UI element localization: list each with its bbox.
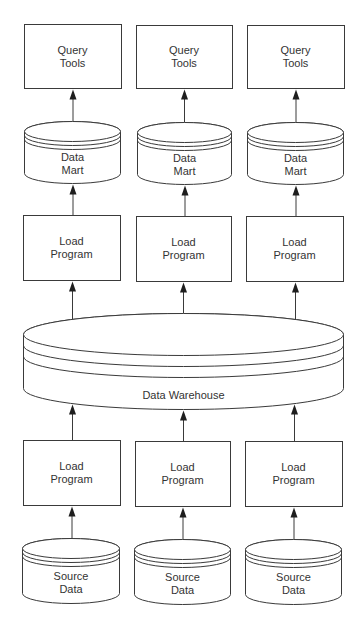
flow-arrow (291, 508, 298, 540)
shape-label: Program (273, 249, 315, 261)
flow-arrow (70, 184, 77, 215)
source-data-cylinder[interactable]: SourceData (23, 539, 120, 604)
flow-arrow (181, 90, 188, 123)
arrowhead-icon (180, 283, 187, 293)
shape-label: Load (170, 461, 194, 473)
shape-label: Source (276, 571, 311, 583)
load-program-box[interactable]: LoadProgram (136, 442, 231, 507)
query-tools-box[interactable]: QueryTools (137, 26, 233, 89)
flow-arrow (292, 283, 299, 320)
shape-label: Load (282, 236, 306, 248)
flow-arrow (182, 185, 189, 216)
arrowhead-icon (293, 185, 300, 195)
flow-arrow (69, 507, 76, 539)
shape-label: Source (54, 570, 89, 582)
data-mart-cylinder[interactable]: DataMart (25, 122, 121, 184)
arrowhead-icon (69, 282, 76, 292)
query-tools-box[interactable]: QueryTools (248, 26, 345, 89)
shape-label: Query (169, 44, 199, 56)
shape-label: Program (50, 248, 92, 260)
flow-arrow (180, 508, 187, 540)
arrowhead-icon (180, 411, 187, 421)
shape-label: Mart (174, 165, 196, 177)
load-program-box[interactable]: LoadProgram (137, 217, 232, 282)
load-program-box[interactable]: LoadProgram (24, 216, 121, 281)
shape-label: Program (272, 474, 314, 486)
arrowhead-icon (182, 185, 189, 195)
shape-label: Load (281, 461, 305, 473)
data-warehouse-cylinder[interactable]: Data Warehouse (24, 314, 344, 410)
shape-label: Data (173, 152, 197, 164)
arrowhead-icon (293, 90, 300, 100)
arrowhead-icon (291, 405, 298, 415)
shape-label: Tools (171, 57, 197, 69)
arrowhead-icon (70, 90, 77, 100)
shape-label: Data (171, 584, 195, 596)
data-warehouse-diagram: QueryToolsQueryToolsQueryToolsDataMartDa… (0, 0, 364, 625)
load-program-box[interactable]: LoadProgram (24, 441, 121, 506)
arrowhead-icon (69, 507, 76, 517)
shape-label: Load (59, 235, 83, 247)
shape-label: Data (284, 152, 308, 164)
shape-label: Data (282, 584, 306, 596)
source-data-cylinder[interactable]: SourceData (135, 540, 231, 605)
shape-label: Data (61, 151, 85, 163)
flow-arrow (293, 185, 300, 216)
flow-arrow (293, 90, 300, 123)
arrowhead-icon (70, 184, 77, 194)
shape-label: Program (161, 474, 203, 486)
shape-label: Query (281, 44, 311, 56)
arrowhead-icon (69, 405, 76, 415)
shape-label: Mart (62, 164, 84, 176)
shape-label: Program (50, 473, 92, 485)
data-mart-cylinder[interactable]: DataMart (138, 123, 232, 185)
shape-label: Load (59, 460, 83, 472)
shape-label: Mart (285, 165, 307, 177)
shape-label: Data (59, 583, 83, 595)
arrowhead-icon (292, 283, 299, 293)
shape-label: Tools (283, 57, 309, 69)
query-tools-box[interactable]: QueryTools (25, 25, 122, 89)
arrowhead-icon (180, 508, 187, 518)
source-data-cylinder[interactable]: SourceData (246, 540, 342, 605)
flow-arrow (291, 405, 298, 441)
shape-label: Query (58, 44, 88, 56)
flow-arrow (69, 405, 76, 440)
load-program-box[interactable]: LoadProgram (246, 442, 343, 507)
arrowhead-icon (181, 90, 188, 100)
shape-label: Load (171, 236, 195, 248)
shape-label: Tools (60, 57, 86, 69)
flow-arrow (69, 282, 76, 320)
shape-label: Program (162, 249, 204, 261)
data-mart-cylinder[interactable]: DataMart (248, 123, 344, 185)
flow-arrow (180, 411, 187, 442)
flow-arrow (70, 90, 77, 122)
warehouse-label: Data Warehouse (142, 389, 224, 401)
shape-label: Source (165, 571, 200, 583)
arrowhead-icon (291, 508, 298, 518)
flow-arrow (180, 283, 187, 314)
load-program-box[interactable]: LoadProgram (247, 217, 344, 282)
